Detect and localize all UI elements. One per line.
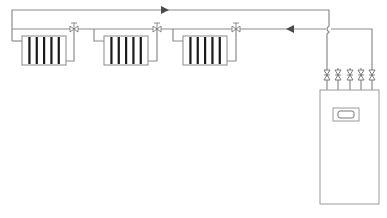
radiator-fin [211, 37, 213, 64]
radiator-3 [173, 29, 236, 65]
radiator-fin [125, 37, 127, 64]
boiler-display-screen [338, 111, 354, 118]
radiator-2 [94, 29, 157, 65]
diagram-svg [0, 0, 387, 218]
radiator-1 [12, 29, 74, 65]
boiler-valve-icon [358, 70, 364, 80]
boiler-valve-icon [347, 70, 353, 80]
boiler-casing [320, 90, 379, 204]
supply-flow-arrow-icon [161, 6, 169, 14]
radiator-outlet-pipe [227, 29, 236, 61]
boiler-unit [320, 90, 379, 204]
radiator-fin [140, 37, 142, 64]
boiler-valve-icon [324, 70, 330, 80]
radiator-fin [50, 37, 52, 64]
radiator-fin [219, 37, 221, 64]
heating-diagram: Supply flow Return flow Boiler [0, 0, 387, 218]
radiator-fin [132, 37, 134, 64]
radiator-fin [28, 37, 30, 64]
boiler-valve-icon [335, 70, 341, 80]
radiator-inlet-pipe [173, 29, 183, 41]
radiator-fin [43, 37, 45, 64]
radiator-outlet-pipe [66, 29, 74, 61]
radiator-fin [189, 37, 191, 64]
radiator-group [12, 29, 236, 65]
return-flow-arrow-icon [286, 25, 294, 33]
radiator-fin [204, 37, 206, 64]
radiator-fin [197, 37, 199, 64]
radiator-fin [110, 37, 112, 64]
radiator-outlet-pipe [148, 29, 157, 61]
boiler-valve-icon [369, 70, 375, 80]
radiator-fin [58, 37, 60, 64]
radiator-fin [118, 37, 120, 64]
radiator-inlet-pipe [94, 29, 104, 41]
radiator-fin [36, 37, 38, 64]
